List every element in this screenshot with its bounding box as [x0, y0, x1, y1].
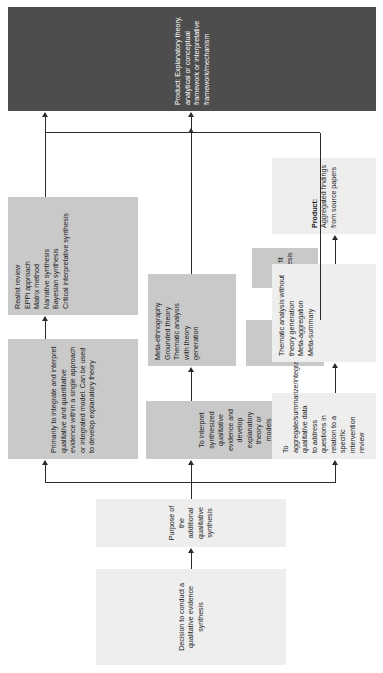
- node-branch-interpret-label: To interpret synthesized qualitative evi…: [197, 407, 273, 453]
- connector-spine-to-aggregate: [335, 464, 336, 483]
- figure-rotation-wrapper: Decision to conduct a qualitative eviden…: [0, 0, 383, 673]
- arrowhead-integrate-to-methods: [42, 316, 48, 321]
- method-item: Meta-ethnography: [153, 280, 163, 360]
- node-methods-interpret: Meta-ethnography Grounded theory Themati…: [148, 274, 236, 366]
- connector-start-to-purpose: [191, 552, 192, 569]
- node-purpose-label: Purpose of the additional qualitative sy…: [167, 505, 215, 541]
- connector-methods-aggregate-to-product: [335, 239, 336, 264]
- arrowhead-spine-to-aggregate: [332, 460, 338, 465]
- node-methods-aggregate: Thematic analysis without theory generat…: [272, 264, 376, 362]
- node-product-theory: Product: Explanatory theory, analytical …: [8, 7, 376, 111]
- arrowhead-framework-to-product: [188, 128, 194, 133]
- arrowhead-spine-to-integrate: [42, 460, 48, 465]
- node-branch-integrate: Primarily to integrate and interpret qua…: [8, 339, 138, 459]
- method-item: EPPI approach: [23, 203, 33, 309]
- connector-methods-integrate-to-product: [45, 116, 46, 197]
- arrowhead-aggregate-to-methods: [332, 363, 338, 368]
- method-item: theory generation: [287, 270, 297, 356]
- method-item: Grounded theory: [163, 280, 173, 360]
- method-item: generation: [191, 280, 201, 360]
- node-product-theory-label: Product: Explanatory theory, analytical …: [173, 13, 211, 105]
- arrowhead-methods-interpret-to-product: [188, 112, 194, 117]
- node-product-aggregated-label: Aggregated findings from source papers: [319, 165, 338, 228]
- node-branch-aggregate: To aggregate/summarize/integrate qualita…: [272, 393, 376, 459]
- node-start: Decision to conduct a qualitative eviden…: [96, 569, 286, 665]
- flowchart-canvas: Decision to conduct a qualitative eviden…: [0, 0, 383, 673]
- method-item: Thematic analysis: [172, 280, 182, 360]
- method-item: with theory: [182, 280, 192, 360]
- connector-spine-to-interpret: [191, 464, 192, 483]
- method-item: Meta-summary: [306, 270, 316, 356]
- method-item: Narrative synthesis: [42, 203, 52, 309]
- connector-integrate-to-methods: [45, 320, 46, 339]
- node-product-aggregated-prefix: Product:: [310, 199, 319, 228]
- method-item: Realist review: [13, 203, 23, 309]
- node-product-aggregated: Product: Aggregated findings from source…: [272, 158, 376, 234]
- connector-methods-interpret-to-product: [191, 116, 192, 274]
- arrowhead-methods-aggregate-to-product: [332, 235, 338, 240]
- arrowhead-spine-to-interpret: [188, 460, 194, 465]
- connector-framework-rail: [320, 133, 321, 320]
- node-start-label: Decision to conduct a qualitative eviden…: [177, 575, 206, 659]
- method-item: Matrix method: [32, 203, 42, 309]
- arrowhead-start-to-purpose: [188, 548, 194, 553]
- node-branch-aggregate-label: To aggregate/summarize/integrate qualita…: [281, 399, 367, 453]
- method-item: Bayesian synthesis: [51, 203, 61, 309]
- connector-product-rail: [45, 132, 320, 133]
- connector-purpose-out: [191, 483, 192, 499]
- connector-aggregate-to-methods: [335, 367, 336, 393]
- node-purpose: Purpose of the additional qualitative sy…: [96, 499, 286, 547]
- connector-fanout-spine: [45, 482, 335, 483]
- node-methods-integrate: Realist review EPPI approach Matrix meth…: [8, 197, 138, 315]
- arrowhead-interpret-to-methods: [188, 367, 194, 372]
- arrowhead-methods-integrate-to-product: [42, 112, 48, 117]
- method-item: Critical interpretative synthesis: [61, 203, 71, 309]
- connector-interpret-to-methods: [191, 371, 192, 401]
- connector-spine-to-integrate: [45, 464, 46, 483]
- method-item: Meta-aggregation: [296, 270, 306, 356]
- node-branch-integrate-label: Primarily to integrate and interpret qua…: [49, 345, 97, 453]
- method-item: Thematic analysis without: [277, 270, 287, 356]
